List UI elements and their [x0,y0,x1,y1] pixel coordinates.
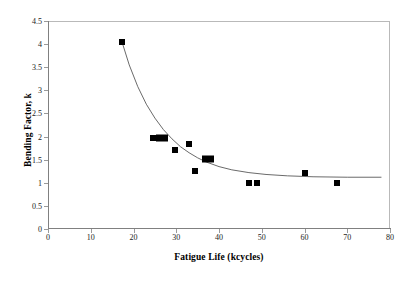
y-tick-label: 4.5 [14,17,42,26]
x-tick-label: 80 [386,233,394,242]
x-tick-label: 70 [343,233,351,242]
y-tick [44,44,48,45]
y-tick [44,206,48,207]
y-axis-line [48,21,49,229]
x-tick-label: 10 [87,233,95,242]
chart-figure: 01020304050607080 00.511.522.533.544.5 F… [0,0,411,282]
x-tick-label: 40 [215,233,223,242]
data-point [172,147,178,153]
plot-area [48,21,390,229]
x-tick-label: 60 [301,233,309,242]
x-tick-label: 50 [258,233,266,242]
y-tick [44,90,48,91]
y-tick [44,137,48,138]
data-point [246,180,252,186]
y-tick [44,21,48,22]
x-tick-label: 0 [46,233,50,242]
x-axis-title: Fatigue Life (kcycles) [48,252,390,262]
data-point [119,39,125,45]
data-point [302,170,308,176]
y-tick [44,160,48,161]
y-axis-title: Bending Factor, k [23,50,33,210]
y-tick-label: 0 [14,225,42,234]
x-tick-label: 30 [172,233,180,242]
y-tick-label: 4 [14,40,42,49]
y-tick [44,113,48,114]
data-point [202,155,214,162]
data-point [254,180,260,186]
data-point [192,168,198,174]
data-point [334,180,340,186]
y-tick [44,183,48,184]
y-tick [44,67,48,68]
x-tick-label: 20 [130,233,138,242]
y-tick [44,229,48,230]
data-point [156,134,168,141]
data-point [186,141,192,147]
